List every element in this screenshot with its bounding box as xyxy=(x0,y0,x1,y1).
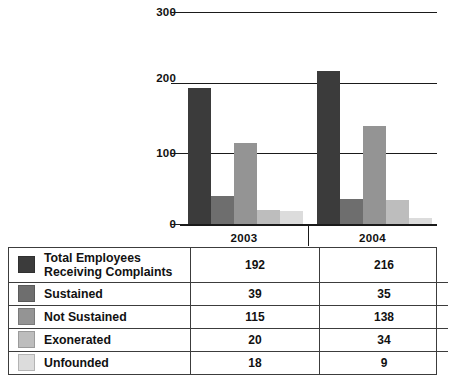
table-cell-value-2004: 216 xyxy=(320,248,449,282)
table-row: Not Sustained115138 xyxy=(9,305,448,328)
table-cell-value-2003: 20 xyxy=(191,328,320,351)
y-tick-300 xyxy=(171,12,180,13)
x-category-label-2004: 2004 xyxy=(308,232,437,244)
bar-chart: 300 200 100 0 2003 2004 xyxy=(0,0,454,246)
bar-2004-series-2 xyxy=(363,126,386,224)
table-cell-value-2004: 9 xyxy=(320,351,449,374)
table-row: Total Employees Receiving Complaints1922… xyxy=(9,248,448,282)
table-row: Exonerated2034 xyxy=(9,328,448,351)
legend-label: Not Sustained xyxy=(44,310,127,324)
y-tick-0 xyxy=(171,224,180,225)
bar-2003-series-4 xyxy=(280,211,303,224)
bar-2004-series-4 xyxy=(409,218,432,224)
bar-2003-series-0 xyxy=(188,88,211,224)
legend-swatch-icon xyxy=(18,256,35,273)
table-cell-legend: Sustained xyxy=(9,282,191,305)
table-cell-value-2003: 115 xyxy=(191,305,320,328)
data-table: Total Employees Receiving Complaints1922… xyxy=(9,248,448,374)
bar-2003-series-3 xyxy=(257,210,280,224)
legend-swatch-icon xyxy=(18,308,35,325)
table-cell-legend: Unfounded xyxy=(9,351,191,374)
table-row: Unfounded189 xyxy=(9,351,448,374)
legend-swatch-icon xyxy=(18,354,35,371)
table-cell-value-2004: 35 xyxy=(320,282,449,305)
legend-swatch-icon xyxy=(18,331,35,348)
legend-label: Total Employees Receiving Complaints xyxy=(44,251,172,279)
table-cell-value-2004: 34 xyxy=(320,328,449,351)
table-cell-legend: Not Sustained xyxy=(9,305,191,328)
table-cell-legend: Exonerated xyxy=(9,328,191,351)
gridline-200 xyxy=(180,83,437,84)
table-row: Sustained3935 xyxy=(9,282,448,305)
table-cell-value-2003: 192 xyxy=(191,248,320,282)
legend-swatch-icon xyxy=(18,285,35,302)
bar-2003-series-2 xyxy=(234,143,257,224)
bar-2004-series-3 xyxy=(386,200,409,224)
bar-2004-series-1 xyxy=(340,199,363,224)
table-cell-legend: Total Employees Receiving Complaints xyxy=(9,248,191,282)
gridline-100 xyxy=(180,153,437,154)
bar-2003-series-1 xyxy=(211,196,234,224)
table-cell-value-2003: 18 xyxy=(191,351,320,374)
legend-label: Sustained xyxy=(44,287,103,301)
legend-label: Unfounded xyxy=(44,356,109,370)
y-tick-200 xyxy=(171,83,180,84)
legend-data-table: Total Employees Receiving Complaints1922… xyxy=(8,247,437,375)
table-cell-value-2004: 138 xyxy=(320,305,449,328)
legend-label: Exonerated xyxy=(44,333,111,347)
bar-2004-series-0 xyxy=(317,71,340,224)
y-tick-100 xyxy=(171,153,180,154)
plot-area xyxy=(180,12,437,224)
x-category-label-2003: 2003 xyxy=(180,232,308,244)
gridline-300 xyxy=(180,12,437,13)
table-cell-value-2003: 39 xyxy=(191,282,320,305)
